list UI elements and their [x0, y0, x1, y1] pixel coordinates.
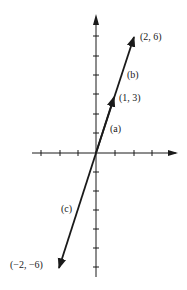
label-point-1-3: (1, 3) — [119, 92, 141, 104]
label-vector-b: (b) — [127, 69, 139, 81]
label-point-neg2-neg6: (−2, −6) — [10, 259, 43, 271]
y-axis-arrow-icon — [93, 14, 99, 25]
label-point-2-6: (2, 6) — [140, 31, 162, 43]
x-axis-arrow-icon — [168, 150, 178, 156]
label-vector-c: (c) — [61, 203, 72, 215]
x-axis — [32, 150, 178, 156]
label-vector-a: (a) — [110, 123, 121, 135]
vector-diagram: (2, 6) (b) (1, 3) (a) (c) (−2, −6) — [0, 0, 187, 290]
